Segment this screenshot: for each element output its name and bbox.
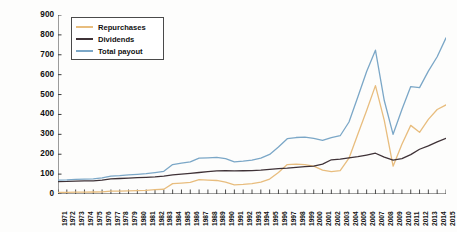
x-tick-label: 1978 (122, 211, 129, 226)
x-tick-label: 2006 (369, 211, 376, 226)
x-tick-label: 1973 (78, 211, 85, 226)
x-tick-label: 2000 (316, 211, 323, 226)
legend-swatch-dividends (76, 38, 93, 40)
x-tick-label: 1976 (105, 211, 112, 226)
y-tick-label: 700 (18, 51, 54, 59)
x-tick-label: 2013 (431, 211, 438, 226)
x-tick-label: 1984 (175, 211, 182, 226)
y-axis-tick-labels: 0100200300400500600700800900 (18, 12, 54, 194)
legend-label-dividends: Dividends (98, 35, 134, 44)
y-tick-label: 200 (18, 150, 54, 158)
x-tick-label: 1983 (166, 211, 173, 226)
x-tick-label: 2001 (325, 211, 332, 226)
x-tick-label: 1987 (202, 211, 209, 226)
legend-label-total-payout: Total payout (98, 47, 143, 56)
x-tick-label: 2015 (449, 211, 456, 226)
x-tick-label: 2011 (413, 212, 420, 226)
x-tick-label: 1986 (193, 211, 200, 226)
x-tick-label: 2007 (378, 211, 385, 226)
x-tick-label: 1995 (272, 211, 279, 226)
y-tick-label: 400 (18, 110, 54, 118)
x-tick-label: 1975 (96, 211, 103, 226)
legend-item-repurchases: Repurchases (76, 21, 159, 33)
y-tick-label: 900 (18, 11, 54, 19)
x-tick-label: 1997 (290, 211, 297, 226)
x-tick-label: 1985 (184, 211, 191, 226)
legend-label-repurchases: Repurchases (98, 23, 146, 32)
payout-line-chart: Billions of real 2012 USD 01002003004005… (0, 0, 457, 232)
x-tick-label: 2009 (396, 211, 403, 226)
x-tick-label: 2003 (343, 211, 350, 226)
y-tick-label: 0 (18, 190, 54, 198)
x-tick-label: 1977 (114, 211, 121, 226)
legend-item-total-payout: Total payout (76, 45, 159, 57)
y-tick-label: 600 (18, 71, 54, 79)
x-tick-label: 1993 (255, 211, 262, 226)
x-tick-label: 2005 (360, 211, 367, 226)
legend-swatch-total-payout (76, 50, 93, 52)
chart-legend: Repurchases Dividends Total payout (71, 17, 164, 60)
x-tick-label: 1979 (131, 211, 138, 226)
x-tick-label: 1974 (87, 211, 94, 226)
x-tick-label: 1980 (140, 211, 147, 226)
x-tick-label: 2008 (387, 211, 394, 226)
y-tick-label: 500 (18, 91, 54, 99)
x-axis-tick-labels: 1971197219731974197519761977197819791980… (58, 196, 450, 232)
y-tick-label: 800 (18, 31, 54, 39)
legend-swatch-repurchases (76, 26, 93, 28)
x-tick-label: 1982 (158, 211, 165, 226)
x-tick-label: 1990 (228, 211, 235, 226)
x-tick-label: 2004 (352, 211, 359, 226)
y-tick-label: 300 (18, 130, 54, 138)
x-tick-label: 1972 (69, 211, 76, 226)
x-tick-label: 1996 (281, 211, 288, 226)
x-tick-label: 1989 (219, 211, 226, 226)
x-tick-label: 1981 (149, 211, 156, 226)
x-tick-label: 2002 (334, 211, 341, 226)
x-tick-label: 1994 (263, 211, 270, 226)
x-tick-label: 2010 (405, 211, 412, 226)
x-tick-label: 1999 (308, 211, 315, 226)
legend-item-dividends: Dividends (76, 33, 159, 45)
x-tick-label: 1991 (237, 211, 244, 226)
x-tick-label: 2014 (440, 211, 447, 226)
x-tick-label: 1988 (211, 211, 218, 226)
x-tick-label: 1992 (246, 211, 253, 226)
x-tick-label: 1971 (61, 211, 68, 226)
y-tick-label: 100 (18, 170, 54, 178)
x-tick-label: 2012 (422, 211, 429, 226)
x-tick-label: 1998 (299, 211, 306, 226)
